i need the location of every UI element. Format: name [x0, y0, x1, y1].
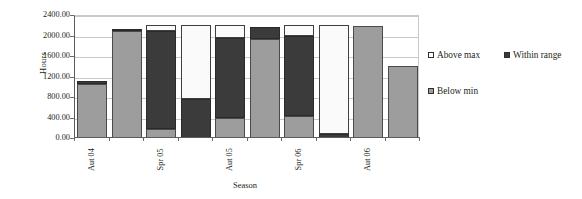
bar-column[interactable]: [250, 15, 280, 138]
y-axis-tick-label: 2000.00: [26, 31, 70, 40]
bar-segment-below[interactable]: [353, 26, 383, 138]
x-axis-tick-label: Aut 04: [87, 140, 96, 180]
bar-segment-within[interactable]: [250, 27, 280, 39]
bar-segment-below[interactable]: [388, 66, 418, 138]
legend-swatch-below-min-icon: [428, 88, 434, 94]
legend-label-within-range: Within range: [513, 50, 561, 60]
chart-legend: Above max Within range Below min: [428, 50, 580, 110]
bar-segment-within[interactable]: [146, 31, 176, 129]
y-axis-tick-label: 1600.00: [26, 51, 70, 60]
bar-segment-below[interactable]: [284, 116, 314, 138]
bar-column[interactable]: [319, 15, 349, 138]
bar-segment-below[interactable]: [77, 84, 107, 138]
bar-column[interactable]: [215, 15, 245, 138]
legend-swatch-within-range-icon: [504, 52, 510, 58]
x-axis-tick-label: Spr 06: [294, 140, 303, 180]
bar-segment-above[interactable]: [146, 25, 176, 31]
bar-segment-above[interactable]: [319, 25, 349, 134]
bar-segment-within[interactable]: [215, 38, 245, 118]
bar-segment-above[interactable]: [181, 25, 211, 99]
bar-column[interactable]: [77, 15, 107, 138]
bars-layer: [75, 16, 418, 138]
bar-segment-above[interactable]: [284, 25, 314, 35]
y-axis-tick-label: 1200.00: [26, 72, 70, 81]
bar-column[interactable]: [388, 15, 418, 138]
y-axis-tick-labels: 0.00400.00800.001200.001600.002000.00240…: [26, 14, 70, 139]
y-axis-tick-label: 2400.00: [26, 10, 70, 19]
bar-segment-within[interactable]: [112, 29, 142, 32]
bar-segment-above[interactable]: [215, 25, 245, 37]
x-axis-tick-labels: Aut 04Spr 05Aut 05Spr 06Aut 06: [0, 141, 582, 179]
bar-segment-below[interactable]: [215, 118, 245, 139]
bar-column[interactable]: [112, 15, 142, 138]
y-axis-tick-label: 800.00: [26, 92, 70, 101]
x-axis-title: Season: [180, 180, 310, 190]
legend-label-below-min: Below min: [437, 86, 478, 96]
legend-label-above-max: Above max: [437, 50, 480, 60]
bar-segment-within[interactable]: [77, 81, 107, 84]
y-axis-tick-label: 400.00: [26, 113, 70, 122]
bar-column[interactable]: [353, 15, 383, 138]
legend-swatch-above-max-icon: [428, 52, 434, 58]
x-axis-tick-label: Aut 05: [225, 140, 234, 180]
legend-item-within-range: Within range: [504, 50, 561, 60]
bar-column[interactable]: [181, 15, 211, 138]
bar-column[interactable]: [146, 15, 176, 138]
bar-segment-within[interactable]: [284, 36, 314, 116]
bar-segment-below[interactable]: [250, 39, 280, 138]
bar-segment-below[interactable]: [112, 31, 142, 138]
x-axis-tick-label: Spr 05: [156, 140, 165, 180]
legend-item-below-min: Below min: [428, 86, 478, 96]
bar-chart-figure: Hours 0.00400.00800.001200.001600.002000…: [0, 0, 582, 199]
plot-area: [74, 15, 419, 138]
legend-item-above-max: Above max: [428, 50, 480, 60]
bar-column[interactable]: [284, 15, 314, 138]
bar-segment-within[interactable]: [181, 99, 211, 138]
x-axis-tick-label: Aut 06: [363, 140, 372, 180]
